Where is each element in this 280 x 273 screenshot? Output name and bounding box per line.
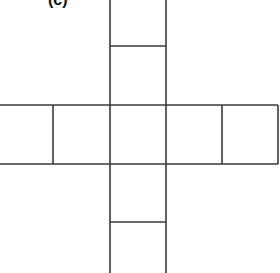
cross-net-diagram [0,0,280,273]
